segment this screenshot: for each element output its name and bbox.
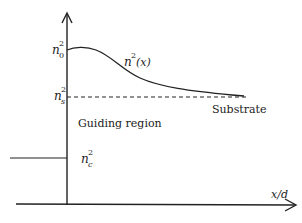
- horizontal-axis: [16, 204, 295, 205]
- index-profile-curve: [67, 47, 244, 96]
- index-profile-diagram: n 2 0 n 2 (x) n 2 s n 2 c Substrate Guid…: [0, 0, 302, 223]
- guiding-region-label: Guiding region: [78, 117, 162, 130]
- ns-sub: s: [61, 97, 65, 106]
- n0-sup: 2: [59, 39, 64, 48]
- nc-sup: 2: [88, 148, 93, 157]
- n0-sub: 0: [59, 51, 64, 60]
- nc-sub: c: [88, 160, 93, 169]
- ns-sup: 2: [61, 85, 66, 94]
- x-axis-label: x/d: [271, 188, 288, 201]
- curve-label-arg: (x): [136, 56, 151, 69]
- substrate-label: Substrate: [212, 103, 266, 116]
